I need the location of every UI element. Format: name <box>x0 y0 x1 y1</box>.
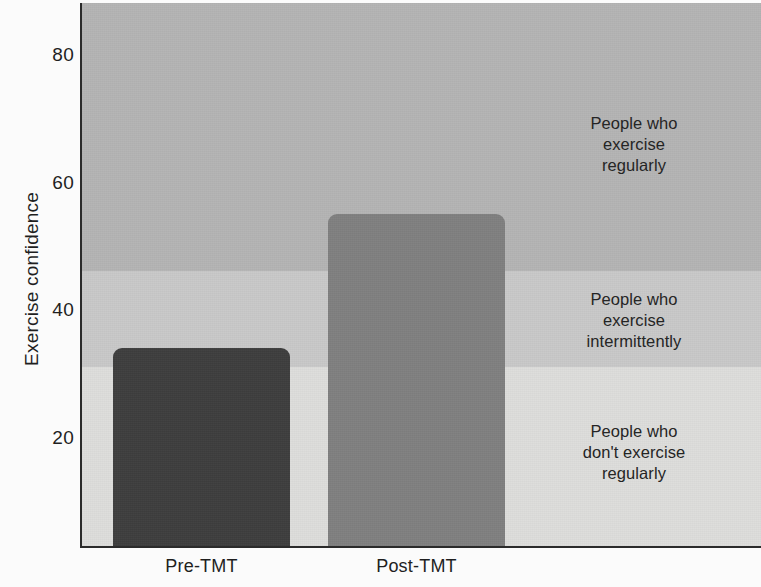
annotation-line-3: regularly <box>529 155 739 176</box>
bar-pre-tmt[interactable] <box>113 348 290 546</box>
x-tick-label-post-tmt: Post-TMT <box>328 556 505 577</box>
y-tick-label-20: 20 <box>28 427 74 449</box>
bar-post-tmt[interactable] <box>328 214 505 546</box>
annotation-dont-exercise-regularly: People who don't exercise regularly <box>529 421 739 484</box>
annotation-line-1: People who <box>529 421 739 442</box>
x-axis-line <box>80 546 761 548</box>
annotation-line-1: People who <box>529 113 739 134</box>
y-axis-line <box>80 3 82 548</box>
annotation-exercise-intermittently: People who exercise intermittently <box>529 289 739 352</box>
y-axis-label: Exercise confidence <box>21 139 43 419</box>
x-tick-label-pre-tmt: Pre-TMT <box>113 556 290 577</box>
annotation-line-2: exercise <box>529 134 739 155</box>
y-tick-label-80: 80 <box>28 44 74 66</box>
annotation-line-2: don't exercise <box>529 442 739 463</box>
annotation-exercise-regularly: People who exercise regularly <box>529 113 739 176</box>
annotation-line-2: exercise <box>529 310 739 331</box>
annotation-line-3: regularly <box>529 463 739 484</box>
plot-area: People who exercise regularly People who… <box>82 3 761 546</box>
bar-chart-figure: People who exercise regularly People who… <box>0 0 761 587</box>
annotation-line-3: intermittently <box>529 331 739 352</box>
annotation-line-1: People who <box>529 289 739 310</box>
